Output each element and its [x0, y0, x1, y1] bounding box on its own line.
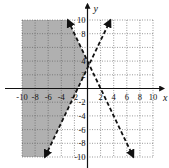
x-tick-label: 2 — [98, 92, 102, 102]
x-tick-label: -8 — [32, 92, 39, 102]
y-axis-label: y — [93, 3, 99, 14]
x-tick-label: -2 — [71, 92, 78, 102]
x-tick-label: -10 — [16, 92, 27, 102]
y-tick-label: -10 — [74, 152, 85, 162]
x-tick-label: 8 — [138, 92, 142, 102]
y-tick-label: -6 — [78, 125, 85, 135]
y-tick-label: 10 — [77, 15, 86, 25]
x-tick-label: -6 — [45, 92, 52, 102]
x-axis-label: x — [162, 92, 168, 103]
inequality-graph: xy-10-8-6-4-224681010842-2-4-6-8-10 — [0, 0, 169, 168]
x-tick-label: 4 — [112, 92, 117, 102]
x-tick-label: 10 — [149, 92, 158, 102]
y-tick-label: 8 — [81, 29, 85, 39]
y-tick-label: -8 — [78, 138, 85, 148]
x-tick-label: 6 — [125, 92, 129, 102]
y-tick-label: -2 — [78, 97, 85, 107]
x-tick-label: -4 — [58, 92, 66, 102]
y-tick-label: -4 — [78, 111, 86, 121]
y-tick-label: 2 — [81, 70, 85, 80]
